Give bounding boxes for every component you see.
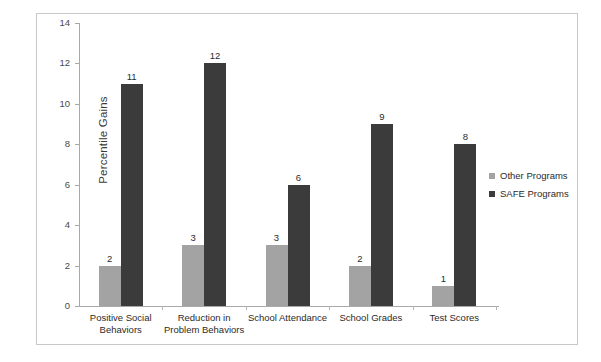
bar-value-label: 6: [282, 172, 316, 183]
bar-safe-programs[interactable]: [454, 144, 476, 306]
legend-swatch-icon: [489, 173, 495, 179]
y-axis-tick-mark: [75, 306, 79, 307]
bar-safe-programs[interactable]: [288, 185, 310, 306]
x-axis-category-label-line: Test Scores: [405, 312, 504, 324]
y-axis-tick-label: 0: [65, 299, 70, 312]
x-axis-tick-mark: [329, 306, 330, 310]
y-axis-tick-label: 6: [65, 178, 70, 191]
bar-value-label: 8: [448, 131, 482, 142]
y-axis-tick-label: 4: [65, 218, 70, 231]
legend-item[interactable]: SAFE Programs: [489, 187, 569, 200]
y-axis-tick-label: 10: [59, 97, 70, 110]
x-axis-tick-mark: [496, 306, 497, 310]
x-axis-tick-mark: [246, 306, 247, 310]
y-axis-tick-label: 12: [59, 56, 70, 69]
x-axis-category-label: Test Scores: [405, 312, 504, 324]
bar-safe-programs[interactable]: [371, 124, 393, 306]
bar-other-programs[interactable]: [266, 245, 288, 306]
plot-area: 211312362918: [79, 23, 496, 306]
legend-item-label: Other Programs: [500, 169, 568, 182]
y-axis-tick-label: 2: [65, 259, 70, 272]
x-axis-line: [79, 306, 499, 307]
y-axis-tick-label: 14: [59, 16, 70, 29]
bar-safe-programs[interactable]: [204, 63, 226, 306]
y-axis-tick-label: 8: [65, 137, 70, 150]
chart-figure: Percentile Gains 02468101214 21131236291…: [36, 13, 578, 345]
x-axis-tick-mark: [162, 306, 163, 310]
bar-value-label: 11: [115, 71, 149, 82]
legend-item-label: SAFE Programs: [500, 187, 569, 200]
legend-swatch-icon: [489, 191, 495, 197]
bar-safe-programs[interactable]: [121, 84, 143, 306]
bar-other-programs[interactable]: [349, 266, 371, 306]
x-axis-category-label-line: Problem Behaviors: [154, 324, 253, 336]
bar-value-label: 12: [198, 50, 232, 61]
x-axis-tick-mark: [413, 306, 414, 310]
legend-item[interactable]: Other Programs: [489, 169, 569, 182]
bar-other-programs[interactable]: [182, 245, 204, 306]
chart-legend: Other ProgramsSAFE Programs: [489, 169, 569, 205]
bar-value-label: 9: [365, 111, 399, 122]
bar-other-programs[interactable]: [99, 266, 121, 306]
bar-other-programs[interactable]: [432, 286, 454, 306]
